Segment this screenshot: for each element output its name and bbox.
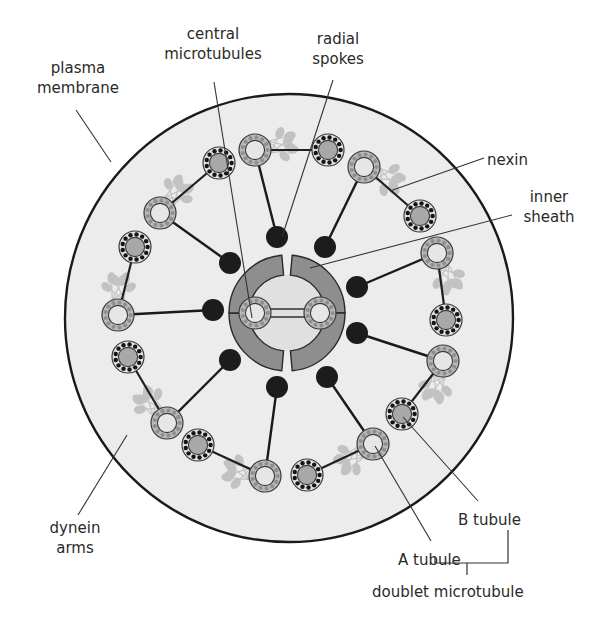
- protofilament: [375, 165, 379, 169]
- protofilament: [191, 455, 195, 459]
- a-tubule-lumen: [108, 305, 127, 324]
- label-dynein-arms: dyneinarms: [30, 518, 120, 558]
- protofilament: [123, 236, 127, 240]
- label-plasma-membrane: plasmamembrane: [23, 58, 133, 98]
- protofilament: [333, 137, 337, 141]
- protofilament: [366, 430, 370, 434]
- b-tubule-lumen: [410, 206, 429, 225]
- protofilament: [442, 241, 446, 245]
- protofilament: [184, 446, 188, 450]
- b-tubule: [312, 134, 344, 166]
- protofilament: [451, 328, 455, 332]
- protofilament: [300, 485, 304, 489]
- protofilament: [300, 461, 304, 465]
- protofilament: [153, 223, 157, 227]
- protofilament: [241, 308, 245, 312]
- protofilament: [144, 239, 148, 243]
- protofilament: [306, 485, 310, 489]
- protofilament: [363, 152, 367, 156]
- protofilament: [446, 257, 450, 261]
- protofilament: [207, 152, 211, 156]
- protofilament: [445, 305, 449, 309]
- protofilament: [401, 424, 405, 428]
- protofilament: [425, 203, 429, 207]
- protofilament: [169, 205, 173, 209]
- protofilament: [166, 408, 170, 412]
- protofilament: [423, 248, 427, 252]
- protofilament: [406, 217, 410, 221]
- protofilament: [123, 323, 127, 327]
- a-tubule-lumen: [245, 140, 264, 159]
- protofilament: [106, 305, 110, 309]
- protofilament: [432, 315, 436, 319]
- protofilament: [295, 481, 299, 485]
- protofilament: [321, 160, 325, 164]
- protofilament: [264, 461, 268, 465]
- protofilament: [436, 263, 440, 267]
- b-tubule-lumen: [297, 465, 316, 484]
- protofilament: [266, 148, 270, 152]
- protofilament: [327, 135, 331, 139]
- protofilament: [357, 153, 361, 157]
- protofilament: [313, 323, 317, 327]
- protofilament: [411, 406, 415, 410]
- a-tubule: [102, 299, 134, 331]
- protofilament: [266, 311, 270, 315]
- protofilament: [350, 168, 354, 172]
- protofilament: [241, 151, 245, 155]
- protofilament: [390, 420, 394, 424]
- protofilament: [146, 214, 150, 218]
- protofilament: [378, 432, 382, 436]
- label-line: inner: [514, 187, 584, 207]
- b-tubule-lumen: [436, 310, 455, 329]
- b-tubule-lumen: [392, 404, 411, 423]
- protofilament: [442, 261, 446, 265]
- protofilament: [260, 321, 264, 325]
- a-tubule-lumen: [354, 157, 373, 176]
- protofilament: [145, 245, 149, 249]
- protofilament: [171, 211, 175, 215]
- protofilament: [218, 148, 222, 152]
- a-tubule: [427, 345, 459, 377]
- protofilament: [293, 476, 297, 480]
- a-tubule: [421, 237, 453, 269]
- protofilament: [248, 160, 252, 164]
- protofilament: [254, 298, 258, 302]
- protofilament: [264, 305, 268, 309]
- protofilament: [127, 307, 131, 311]
- label-line: A tubule: [398, 550, 478, 570]
- protofilament: [361, 450, 365, 454]
- protofilament: [425, 243, 429, 247]
- protofilament: [153, 199, 157, 203]
- protofilament: [127, 367, 131, 371]
- b-tubule: [430, 304, 462, 336]
- protofilament: [406, 211, 410, 215]
- label-line: central: [148, 24, 278, 44]
- protofilament: [229, 161, 233, 165]
- protofilament: [264, 142, 268, 146]
- protofilament: [253, 482, 257, 486]
- a-tubule: [144, 197, 176, 229]
- b-tubule-lumen: [318, 140, 337, 159]
- label-b-tubule: B tubule: [458, 510, 538, 530]
- protofilament: [191, 431, 195, 435]
- a-tubule-lumen: [363, 434, 382, 453]
- label-line: radial: [300, 29, 376, 49]
- b-tubule: [112, 341, 144, 373]
- spoke-head: [202, 299, 224, 321]
- protofilament: [172, 431, 176, 435]
- protofilament: [153, 418, 157, 422]
- protofilament: [308, 319, 312, 323]
- protofilament: [451, 307, 455, 311]
- protofilament: [104, 316, 108, 320]
- protofilament: [270, 484, 274, 488]
- protofilament: [241, 145, 245, 149]
- protofilament: [373, 159, 377, 163]
- protofilament: [312, 483, 316, 487]
- protofilament: [411, 418, 415, 422]
- protofilament: [104, 310, 108, 314]
- protofilament: [448, 251, 452, 255]
- protofilament: [316, 156, 320, 160]
- protofilament: [352, 173, 356, 177]
- spoke-head: [346, 276, 368, 298]
